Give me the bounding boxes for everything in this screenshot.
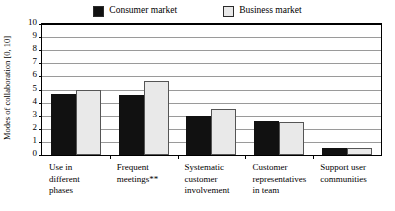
y-tick-label-5: 5 <box>7 84 37 93</box>
legend-swatch-consumer-icon <box>93 6 104 17</box>
y-tick-label-1: 1 <box>7 136 37 145</box>
y-tick-label-10: 10 <box>7 18 37 27</box>
bar-consumer <box>119 95 144 155</box>
x-axis-label-line: Customer <box>252 162 314 174</box>
x-axis-separator <box>313 155 314 159</box>
bar-group <box>110 24 178 155</box>
x-axis-label: Frequentmeetings** <box>117 162 179 185</box>
y-tick-label-9: 9 <box>7 31 37 40</box>
gridline-0 <box>42 155 381 156</box>
bar-group <box>245 24 313 155</box>
x-axis-label-line: Use in <box>49 162 111 174</box>
y-axis-tick-labels: 109876543210 <box>5 23 37 154</box>
y-tick-label-2: 2 <box>7 123 37 132</box>
legend-item-business: Business market <box>223 6 302 17</box>
legend-item-consumer: Consumer market <box>93 6 177 17</box>
x-axis-label-line: different <box>49 174 111 186</box>
bar-business <box>211 109 236 156</box>
x-axis-label: Customerrepresentativesin team <box>252 162 314 197</box>
bar-chart: Consumer market Business market Modes of… <box>0 0 395 211</box>
x-axis-label: Systematiccustomerinvolvement <box>185 162 247 197</box>
x-axis-label: Support usercommunities <box>320 162 382 185</box>
legend-swatch-business-icon <box>223 6 234 17</box>
legend-label-business: Business market <box>239 6 302 16</box>
bar-group <box>42 24 110 155</box>
x-axis-label-line: representatives <box>252 174 314 186</box>
bar-consumer <box>322 148 347 155</box>
x-axis-label-line: meetings** <box>117 174 179 186</box>
bar-business <box>347 148 372 155</box>
y-tick-label-6: 6 <box>7 70 37 79</box>
x-axis-separator <box>110 155 111 159</box>
x-axis-label-line: Support user <box>320 162 382 174</box>
x-axis-label-line: Frequent <box>117 162 179 174</box>
x-axis-separator <box>245 155 246 159</box>
bar-consumer <box>254 121 279 155</box>
bar-business <box>279 122 304 155</box>
y-tick-label-7: 7 <box>7 57 37 66</box>
x-axis-label-line: involvement <box>185 185 247 197</box>
y-tick-label-3: 3 <box>7 110 37 119</box>
bar-business <box>144 81 169 155</box>
x-axis-label: Use indifferentphases <box>49 162 111 197</box>
x-axis-label-line: customer <box>185 174 247 186</box>
y-tick-label-4: 4 <box>7 97 37 106</box>
bar-consumer <box>51 94 76 155</box>
bar-consumer <box>186 116 211 155</box>
x-axis-category-labels: Use indifferentphasesFrequentmeetings**S… <box>41 162 380 210</box>
bar-group <box>313 24 381 155</box>
x-axis-label-line: Systematic <box>185 162 247 174</box>
x-axis-label-line: in team <box>252 185 314 197</box>
x-axis-label-line: phases <box>49 185 111 197</box>
bar-series-container <box>42 24 381 155</box>
chart-legend: Consumer market Business market <box>0 3 395 19</box>
plot-area <box>41 23 382 156</box>
bar-group <box>178 24 246 155</box>
y-tick-mark-0 <box>39 155 42 156</box>
bar-business <box>76 90 101 156</box>
y-tick-label-0: 0 <box>7 149 37 158</box>
x-axis-label-line: communities <box>320 174 382 186</box>
legend-label-consumer: Consumer market <box>109 6 177 16</box>
x-axis-separator <box>178 155 179 159</box>
y-tick-label-8: 8 <box>7 44 37 53</box>
